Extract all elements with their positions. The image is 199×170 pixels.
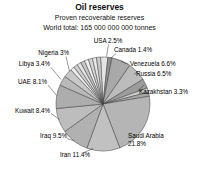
label-leader-line (48, 85, 57, 96)
slice-label-21-8-: 21.8% (128, 140, 146, 147)
slice-label-saudi-arabia: Saudi Arabia (128, 132, 164, 139)
label-leader-line (66, 57, 70, 72)
slice-label-russia-6-5-: Russia 6.5% (136, 70, 172, 77)
pie-chart: USA 2.5%Canada 1.4%Venezuela 6.6%Russia … (0, 0, 199, 170)
slice-label-iran-11-4-: Iran 11.4% (60, 151, 90, 158)
slice-label-libya-3-4-: Libya 3.4% (19, 60, 51, 68)
slice-label-canada-1-4-: Canada 1.4% (114, 46, 153, 53)
slice-label-venezuela-6-6-: Venezuela 6.6% (130, 60, 176, 67)
slice-label-kuwait-8-4-: Kuwait 8.4% (15, 107, 50, 114)
label-leader-line (107, 45, 109, 57)
slice-label-iraq-9-5-: Iraq 9.5% (40, 132, 67, 140)
slice-label-usa-2-5-: USA 2.5% (94, 37, 123, 44)
slice-label-uae-8-1-: UAE 8.1% (18, 78, 47, 85)
oil-reserves-chart-panel: Oil reserves Proven recoverable reserves… (0, 0, 199, 170)
slice-label-kazakhstan-3-3-: Kazakhstan 3.3% (139, 88, 188, 95)
label-leader-line (51, 68, 61, 80)
slice-label-nigeria-3-: Nigeria 3% (38, 49, 69, 57)
label-leader-line (111, 54, 117, 59)
